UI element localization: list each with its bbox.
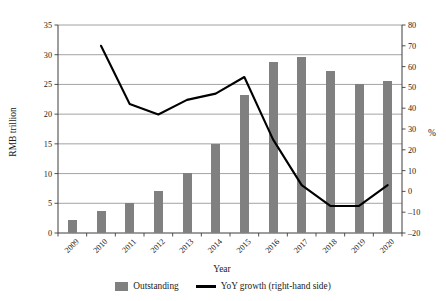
y-axis-left-tick-label: 0 — [48, 229, 52, 238]
x-axis-tick-label: 2017 — [292, 237, 310, 255]
y-axis-left-tick-label: 10 — [44, 170, 52, 179]
bar — [97, 211, 106, 233]
legend-item-outstanding: Outstanding — [115, 281, 178, 291]
gridlines — [58, 25, 402, 233]
y-axis-left-tick-label: 25 — [44, 80, 52, 89]
x-axis-tick-label: 2014 — [206, 237, 224, 255]
y-axis-right-tick-label: 40 — [408, 104, 416, 113]
y-axis-right-tick-label: –20 — [407, 229, 420, 238]
bar — [297, 57, 306, 233]
y-axis-right-tick-label: –10 — [407, 208, 420, 217]
bar — [240, 95, 249, 233]
chart-legend: Outstanding YoY growth (right-hand side) — [0, 281, 446, 291]
y-axis-right-tick-label: 50 — [408, 83, 416, 92]
y-axis-right-tick-label: 70 — [408, 42, 416, 51]
y-axis-right-tick-label: 20 — [408, 146, 416, 155]
x-axis-tick-label: 2019 — [349, 237, 367, 255]
x-axis: 2009201020112012201320142015201620172018… — [58, 233, 402, 255]
y-axis-left-title: RMB trillion — [8, 107, 18, 157]
legend-bar-swatch-icon — [115, 282, 128, 291]
x-axis-tick-label: 2015 — [235, 237, 253, 255]
x-axis-tick-label: 2012 — [149, 237, 167, 255]
y-axis-right: –20–1001020304050607080 — [402, 21, 420, 238]
x-axis-tick-label: 2016 — [263, 237, 281, 255]
x-axis-title: Year — [213, 264, 231, 274]
bar — [125, 203, 134, 233]
bar — [211, 144, 220, 233]
bar — [383, 81, 392, 233]
chart-container: 05101520253035 –20–1001020304050607080 2… — [0, 0, 446, 301]
x-axis-tick-label: 2018 — [321, 237, 339, 255]
legend-item-yoy-growth: YoY growth (right-hand side) — [196, 281, 331, 291]
chart-plot-area: 05101520253035 –20–1001020304050607080 2… — [0, 0, 446, 301]
y-axis-right-tick-label: 80 — [408, 21, 416, 30]
y-axis-left-tick-label: 30 — [44, 51, 52, 60]
x-axis-tick-label: 2013 — [177, 237, 195, 255]
legend-line-swatch-icon — [196, 285, 216, 288]
bar — [355, 84, 364, 233]
bar — [326, 71, 335, 233]
y-axis-right-tick-label: 10 — [408, 167, 416, 176]
y-axis-right-tick-label: 60 — [408, 63, 416, 72]
x-axis-tick-label: 2011 — [120, 237, 138, 255]
x-axis-tick-label: 2009 — [63, 237, 81, 255]
y-axis-right-title: % — [428, 128, 436, 138]
legend-label-outstanding: Outstanding — [133, 281, 178, 291]
bar — [183, 173, 192, 233]
y-axis-left-tick-label: 5 — [48, 199, 52, 208]
legend-label-yoy-growth: YoY growth (right-hand side) — [221, 281, 331, 291]
y-axis-left-tick-label: 15 — [44, 140, 52, 149]
x-axis-tick-label: 2010 — [91, 237, 109, 255]
x-axis-tick-label: 2020 — [378, 237, 396, 255]
bar — [269, 62, 278, 233]
y-axis-left-tick-label: 35 — [44, 21, 52, 30]
bar — [68, 220, 77, 233]
y-axis-right-tick-label: 30 — [408, 125, 416, 134]
bar — [154, 191, 163, 233]
y-axis-left: 05101520253035 — [44, 21, 58, 238]
y-axis-left-tick-label: 20 — [44, 110, 52, 119]
y-axis-right-tick-label: 0 — [408, 187, 412, 196]
